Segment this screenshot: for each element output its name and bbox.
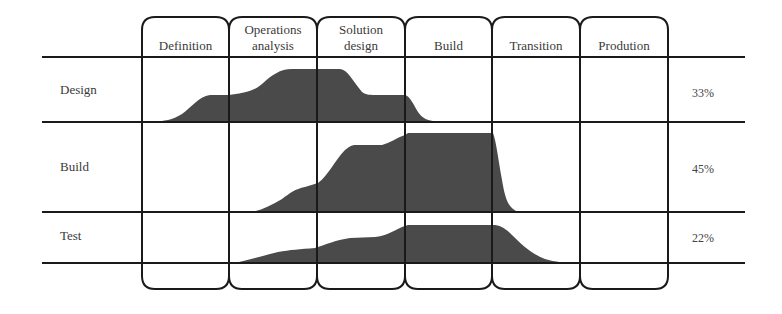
share-build: 45% — [692, 162, 714, 177]
phase-label-line1 — [405, 23, 492, 37]
phase-label-line1 — [580, 23, 668, 37]
phase-label-production: Prodution — [580, 23, 668, 53]
phase-label-definition: Definition — [142, 23, 229, 53]
phase-label-line2: analysis — [229, 39, 317, 53]
share-test: 22% — [692, 231, 714, 246]
phase-label-line2: Transition — [492, 39, 580, 53]
phase-label-line1: Operations — [229, 23, 317, 37]
test-effort-area — [235, 225, 578, 263]
phase-label-line1 — [492, 23, 580, 37]
share-design: 33% — [692, 86, 714, 101]
row-label-build: Build — [60, 159, 89, 175]
phase-label-line1 — [142, 23, 229, 37]
build-effort-area — [252, 133, 518, 212]
phase-label-build: Build — [405, 23, 492, 53]
phase-label-transition: Transition — [492, 23, 580, 53]
phase-label-operations-analysis: Operations analysis — [229, 23, 317, 53]
phase-label-solution-design: Solution design — [317, 23, 405, 53]
effort-distribution-diagram: Definition Operations analysis Solution … — [0, 0, 782, 314]
row-label-test: Test — [60, 228, 81, 244]
design-effort-area — [152, 69, 440, 122]
phase-label-line1: Solution — [317, 23, 405, 37]
phase-label-line2: Build — [405, 39, 492, 53]
row-label-design: Design — [60, 82, 97, 98]
phase-label-line2: Prodution — [580, 39, 668, 53]
phase-label-line2: design — [317, 39, 405, 53]
effort-areas — [152, 69, 578, 263]
phase-label-line2: Definition — [142, 39, 229, 53]
